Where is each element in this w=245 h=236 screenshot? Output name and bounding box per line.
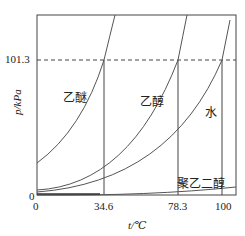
x-tick-34-6: 34.6 xyxy=(94,201,113,212)
curve-ether xyxy=(37,15,115,163)
curve-ethanol xyxy=(37,15,187,190)
label-peg: 聚乙二醇 xyxy=(177,178,225,190)
label-water: 水 xyxy=(205,107,217,119)
curve-water xyxy=(37,20,230,192)
x-axis-label: t/℃ xyxy=(128,220,146,231)
label-ethanol: 乙醇 xyxy=(140,96,164,108)
x-tick-100: 100 xyxy=(215,201,232,212)
y-axis-label: p/kPa xyxy=(12,89,23,115)
plot-frame xyxy=(37,15,236,195)
x-tick-78-3: 78.3 xyxy=(168,201,187,212)
y-tick-101-3: 101.3 xyxy=(5,54,30,65)
label-ether: 乙醚 xyxy=(63,92,87,104)
x-tick-0: 0 xyxy=(33,201,39,212)
